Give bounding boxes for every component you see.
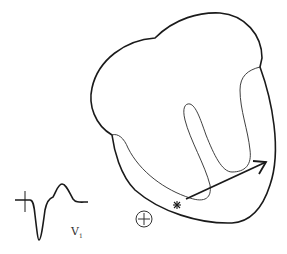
heart-outline [91,13,276,223]
lead-letter: V [71,225,79,238]
positive-electrode-icon [136,211,152,227]
asterisk-icon [173,201,181,209]
lead-label-v1: V1 [71,225,83,239]
arrow-icon [186,161,266,199]
ventricle-wall-inner [112,67,260,200]
heart-diagram [0,0,287,254]
lead-subscript: 1 [79,232,83,239]
